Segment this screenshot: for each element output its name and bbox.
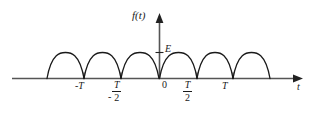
origin-label: 0 [162, 80, 167, 90]
x-tick-label-T: T [222, 81, 228, 91]
fraction-stack: T 2 [112, 80, 121, 103]
y-axis-arrowhead [156, 13, 164, 23]
waveform-figure: f(t) E 0 -T - T 2 T 2 T t [0, 0, 314, 117]
minus-sign: - [108, 91, 111, 102]
fraction-numerator: T [184, 80, 192, 91]
x-axis-label: t [297, 82, 300, 92]
x-tick-label-T-over-2: T 2 [183, 80, 192, 103]
fraction-denominator: 2 [184, 92, 191, 103]
fraction-stack: T 2 [183, 80, 192, 103]
arch-5 [197, 53, 233, 79]
arch-2 [84, 53, 121, 79]
rectified-sine-curve [47, 53, 270, 79]
arch-4 [160, 53, 198, 79]
x-tick-label-minus-T: -T [75, 81, 84, 91]
waveform-plot [0, 0, 314, 117]
y-axis-label: f(t) [132, 10, 145, 21]
fraction-denominator: 2 [113, 92, 120, 103]
amplitude-label: E [165, 44, 171, 54]
arch-1 [47, 53, 84, 79]
arch-3 [121, 53, 159, 79]
fraction-numerator: T [113, 80, 121, 91]
arch-6 [233, 53, 270, 79]
x-tick-label-minus-T-over-2: - T 2 [108, 80, 121, 103]
